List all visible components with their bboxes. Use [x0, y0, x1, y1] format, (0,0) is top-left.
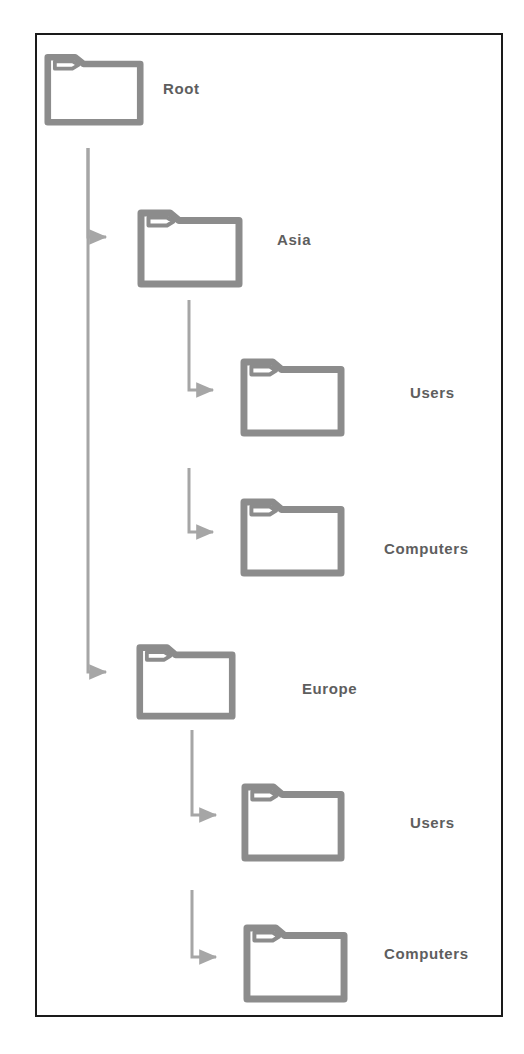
folder-icon-asia-computers[interactable] [244, 502, 341, 573]
folder-icon-asia[interactable] [141, 213, 239, 284]
folder-icon-root[interactable] [48, 57, 140, 122]
folder-icon-europe[interactable] [140, 648, 232, 716]
folder-icon-europe-computers[interactable] [247, 928, 344, 999]
node-label-europe-users: Users [410, 814, 455, 831]
node-label-asia-users: Users [410, 384, 455, 401]
node-label-asia-computers: Computers [384, 540, 469, 557]
node-label-europe-computers: Computers [384, 945, 469, 962]
node-label-europe: Europe [302, 680, 357, 697]
folder-icon-asia-users[interactable] [244, 362, 341, 433]
node-label-root: Root [163, 80, 200, 97]
node-label-asia: Asia [277, 231, 311, 248]
diagram-canvas: RootAsiaUsersComputersEuropeUsersCompute… [0, 0, 524, 1054]
folder-icon-europe-users[interactable] [245, 787, 341, 858]
